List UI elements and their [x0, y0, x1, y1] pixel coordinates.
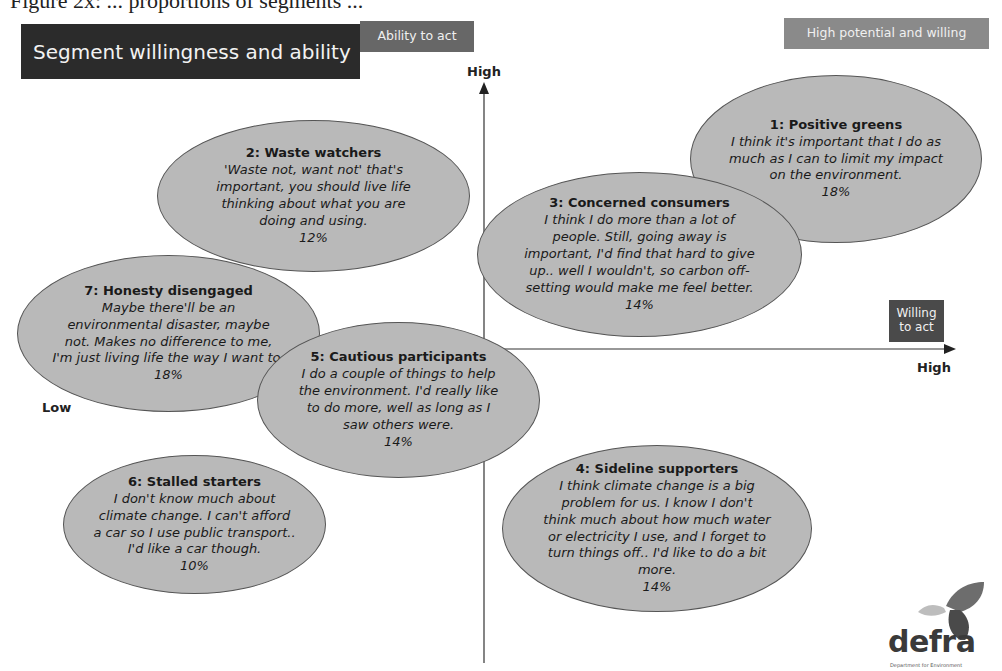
- y-axis-high-label: High: [467, 64, 501, 79]
- segment-title: 6: Stalled starters: [128, 474, 261, 491]
- segment-bubble-sideline-supporters: 4: Sideline supporters I think climate c…: [502, 445, 812, 612]
- segment-title: 5: Cautious participants: [310, 349, 486, 366]
- segment-title: 4: Sideline supporters: [576, 461, 738, 478]
- segment-quote: I think climate change is a big problem …: [543, 478, 770, 579]
- segment-quote: Maybe there'll be an environmental disas…: [52, 300, 284, 368]
- segment-percentage: 10%: [180, 558, 209, 575]
- y-arrow-icon: [479, 82, 489, 94]
- segment-quote: I think it's important that I do as much…: [729, 134, 943, 185]
- segment-title: 3: Concerned consumers: [549, 195, 730, 212]
- segment-percentage: 14%: [625, 297, 654, 314]
- segment-bubble-concerned-consumers: 3: Concerned consumers I think I do more…: [477, 172, 802, 337]
- defra-logo: defra Department for Environment: [888, 580, 998, 671]
- segment-quote: I do a couple of things to help the envi…: [299, 366, 499, 434]
- segment-bubble-stalled-starters: 6: Stalled starters I don't know much ab…: [63, 455, 326, 594]
- segment-title: 7: Honesty disengaged: [84, 283, 253, 300]
- defra-logo-subtext: Department for Environment: [890, 662, 962, 668]
- segment-percentage: 18%: [154, 367, 183, 384]
- defra-logo-text: defra: [888, 624, 975, 659]
- segment-quote: 'Waste not, want not' that's important, …: [216, 162, 411, 230]
- segment-percentage: 12%: [299, 230, 328, 247]
- x-axis-high-label: High: [917, 360, 951, 375]
- segment-quote: I don't know much about climate change. …: [93, 491, 295, 559]
- segment-percentage: 14%: [643, 579, 672, 596]
- segment-percentage: 18%: [822, 184, 851, 201]
- segment-quote: I think I do more than a lot of people. …: [524, 212, 755, 296]
- segment-percentage: 14%: [384, 434, 413, 451]
- segment-bubble-waste-watchers: 2: Waste watchers 'Waste not, want not' …: [157, 120, 470, 272]
- x-axis-low-label: Low: [42, 400, 71, 415]
- segment-bubble-cautious-participants: 5: Cautious participants I do a couple o…: [257, 322, 540, 478]
- segment-title: 1: Positive greens: [770, 117, 902, 134]
- x-arrow-icon: [944, 344, 956, 354]
- segment-title: 2: Waste watchers: [246, 145, 382, 162]
- willing-to-act-tag: Willing to act: [889, 300, 944, 342]
